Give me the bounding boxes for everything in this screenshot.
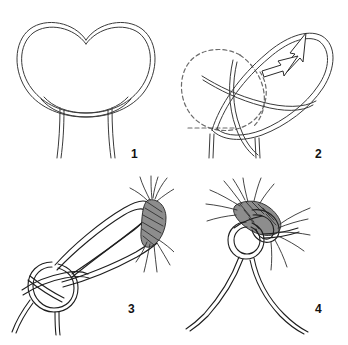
dashed-original-loop [181, 49, 266, 130]
knot-diagram-figure: 1 2 3 4 [0, 0, 348, 345]
panel-step-4 [174, 172, 348, 345]
long-bight [55, 201, 151, 278]
tail-left [209, 134, 214, 158]
tail-right [108, 108, 115, 158]
left-loop [17, 22, 131, 117]
braided-end [141, 200, 166, 248]
step-label-4: 4 [315, 303, 322, 315]
panel-step-1 [0, 0, 174, 172]
tail-left [12, 300, 33, 333]
step-label-1: 1 [131, 148, 138, 160]
step-label-2: 2 [315, 148, 322, 160]
step-label-3: 3 [128, 303, 135, 315]
tail-right [55, 312, 60, 335]
right-loop [41, 22, 155, 117]
tail-left [186, 257, 243, 331]
tail-left [57, 108, 64, 158]
frayed-strands-top [130, 176, 174, 201]
tail-right [250, 258, 308, 334]
panel-step-3 [0, 172, 174, 345]
solid-folded-loop [212, 33, 333, 139]
